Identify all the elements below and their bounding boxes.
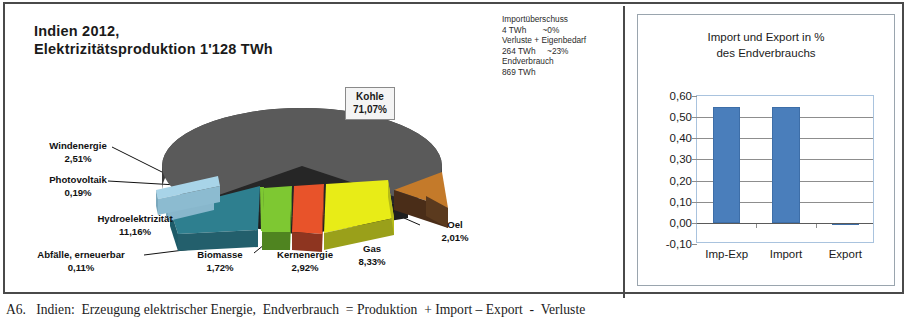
bar-import bbox=[772, 107, 799, 223]
y-axis-tick-mark bbox=[692, 181, 697, 182]
pie-callout-kohle: Kohle 71,07% bbox=[345, 87, 395, 120]
y-axis-tick-mark bbox=[692, 117, 697, 118]
balance-note-line-6: 869 TWh bbox=[502, 67, 622, 78]
y-axis-tick-label: 0,30 bbox=[670, 153, 692, 165]
pie-label-hydroelektrizitaet: Hydroelektrizität 11,16% bbox=[74, 213, 196, 238]
x-axis-label-imp-exp: Imp-Exp bbox=[697, 248, 756, 260]
pie-label-oel: Oel 2,01% bbox=[428, 219, 482, 244]
pie-slice-biomasse-3d bbox=[262, 186, 292, 250]
y-axis-tick-label: 0,50 bbox=[670, 111, 692, 123]
pie-chart-panel: Indien 2012, Elektrizitätsproduktion 1'1… bbox=[8, 6, 623, 298]
balance-note-line-4: 264 TWh ~23% bbox=[502, 46, 622, 57]
callout-name: Kohle bbox=[353, 90, 387, 103]
balance-note-line-5: Endverbrauch bbox=[502, 56, 622, 67]
y-axis-tick-mark bbox=[692, 202, 697, 203]
pie-label-windenergie: Windenergie 2,51% bbox=[26, 140, 130, 165]
y-axis-tick-label: 0,10 bbox=[670, 196, 692, 208]
figure-frame: Indien 2012, Elektrizitätsproduktion 1'1… bbox=[3, 2, 904, 294]
y-axis-tick-mark bbox=[692, 159, 697, 160]
figure-caption: A6. Indien: Erzeugung elektrischer Energ… bbox=[6, 302, 902, 318]
y-axis-tick-mark bbox=[692, 138, 697, 139]
x-axis-label-import: Import bbox=[756, 248, 815, 260]
y-axis-tick-mark bbox=[692, 244, 697, 245]
balance-note-line-3: Verluste + Eigenbedarf bbox=[502, 35, 622, 46]
bar-chart-plot-area: 0,600,500,400,300,200,100,00-0,10Imp-Exp… bbox=[696, 95, 874, 243]
y-axis-tick-label: 0,20 bbox=[670, 175, 692, 187]
pie-label-gas: Gas 8,33% bbox=[344, 243, 400, 268]
pie-label-biomasse: Biomasse 1,72% bbox=[178, 249, 262, 274]
callout-value: 71,07% bbox=[353, 103, 387, 116]
y-axis-tick-label: 0,00 bbox=[670, 217, 692, 229]
x-axis-label-export: Export bbox=[816, 248, 875, 260]
bar-imp-exp bbox=[713, 107, 740, 223]
bar-chart-box: Import und Export in % des Endverbrauchs… bbox=[637, 14, 895, 286]
pie-label-abfaelle: Abfälle, erneuerbar 0,11% bbox=[14, 249, 148, 274]
energy-balance-note: Importüberschuss 4 TWh ~0% Verluste + Ei… bbox=[502, 14, 622, 78]
y-axis-tick-mark bbox=[692, 96, 697, 97]
y-axis-tick-label: -0,10 bbox=[666, 238, 692, 250]
pie-slice-gas-3d bbox=[324, 180, 394, 250]
balance-note-line-1: Importüberschuss bbox=[502, 14, 622, 25]
balance-note-line-2: 4 TWh ~0% bbox=[502, 25, 622, 36]
pie-slice-kernenergie-3d bbox=[292, 184, 324, 252]
bar-chart-title: Import und Export in % des Endverbrauchs bbox=[638, 29, 894, 61]
zero-axis-line bbox=[697, 223, 873, 224]
pie-label-photovoltaik: Photovoltaik 0,19% bbox=[26, 174, 130, 199]
pie-chart-title: Indien 2012, Elektrizitätsproduktion 1'1… bbox=[34, 22, 273, 58]
y-axis-tick-label: 0,60 bbox=[670, 90, 692, 102]
y-axis-tick-label: 0,40 bbox=[670, 132, 692, 144]
bar-chart-panel: Import und Export in % des Endverbrauchs… bbox=[625, 6, 908, 298]
pie-label-kernenergie: Kernenergie 2,92% bbox=[262, 249, 348, 274]
